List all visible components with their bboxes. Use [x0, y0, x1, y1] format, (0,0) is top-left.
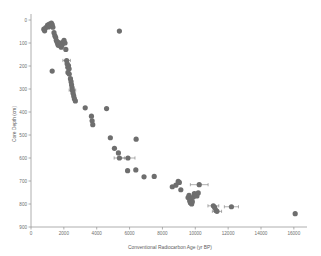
x-tick-label: 10000 [189, 231, 202, 236]
data-point [112, 146, 117, 151]
x-tick-label: 6000 [124, 231, 135, 236]
data-point [293, 211, 298, 216]
data-point [141, 174, 146, 179]
x-tick-label: 0 [30, 231, 33, 236]
x-tick-label: 2000 [59, 231, 70, 236]
data-point [125, 168, 130, 173]
data-point [62, 40, 67, 45]
x-tick-label: 8000 [157, 231, 168, 236]
data-point [177, 180, 182, 185]
data-point [229, 204, 234, 209]
data-point [190, 199, 195, 204]
x-tick-label: 14000 [255, 231, 268, 236]
y-axis-title: Core Depth (cm) [12, 106, 17, 143]
y-tick-label: 900 [19, 225, 27, 230]
data-point [125, 155, 130, 160]
data-points-layer [41, 21, 298, 217]
data-point [134, 137, 139, 142]
y-tick-label: 500 [19, 133, 27, 138]
data-point [196, 190, 201, 195]
data-point [117, 28, 122, 33]
data-point [67, 71, 72, 76]
y-tick-label: 400 [19, 110, 27, 115]
y-tick-label: 600 [19, 156, 27, 161]
y-tick-label: 200 [19, 64, 27, 69]
y-tick-label: 100 [19, 41, 27, 46]
x-tick-label: 12000 [222, 231, 235, 236]
data-point [63, 47, 68, 52]
data-point [50, 25, 55, 30]
y-axis: 0100200300400500600700800900 [19, 14, 31, 230]
data-point [73, 98, 78, 103]
data-point [116, 150, 121, 155]
data-point [214, 209, 219, 214]
x-axis-title: Conventional Radiocarbon Age (yr BP) [128, 245, 212, 250]
x-tick-label: 16000 [287, 231, 300, 236]
x-tick-label: 4000 [92, 231, 103, 236]
y-tick-label: 800 [19, 202, 27, 207]
data-point [89, 114, 94, 119]
scatter-chart: 0100200300400500600700800900 02000400060… [0, 0, 321, 256]
data-point [197, 182, 202, 187]
data-point [108, 135, 113, 140]
x-axis: 0200040006000800010000120001400016000 [30, 227, 307, 236]
data-point [50, 68, 55, 73]
data-point [178, 187, 183, 192]
y-tick-label: 300 [19, 87, 27, 92]
y-tick-label: 700 [19, 179, 27, 184]
plot-canvas: 0100200300400500600700800900 02000400060… [0, 0, 321, 256]
data-point [104, 106, 109, 111]
y-tick-label: 0 [24, 18, 27, 23]
data-point [133, 167, 138, 172]
data-point [90, 122, 95, 127]
data-point [83, 105, 88, 110]
data-point [152, 174, 157, 179]
